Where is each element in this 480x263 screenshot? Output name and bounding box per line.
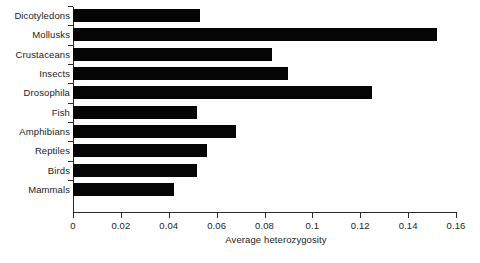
y-tick: [68, 6, 73, 7]
bar-rect: [73, 86, 372, 99]
bar-rect: [73, 67, 288, 80]
bar-crustaceans: [73, 48, 272, 61]
bar-amphibians: [73, 125, 236, 138]
category-label-mollusks: Mollusks: [0, 29, 70, 40]
bar-fish: [73, 106, 197, 119]
y-tick: [68, 161, 73, 162]
bar-rect: [73, 144, 207, 157]
category-label-insects: Insects: [0, 68, 70, 79]
category-label-dicotyledons: Dicotyledons: [0, 10, 70, 21]
bar-rect: [73, 48, 272, 61]
category-label-drosophila: Drosophila: [0, 87, 70, 98]
category-label-birds: Birds: [0, 165, 70, 176]
x-axis-title-text: Average heterozygosity: [225, 234, 326, 246]
bar-reptiles: [73, 144, 207, 157]
bar-rect: [73, 125, 236, 138]
y-tick: [68, 180, 73, 181]
bar-mollusks: [73, 28, 437, 41]
category-label-crustaceans: Crustaceans: [0, 49, 70, 60]
bar-drosophila: [73, 86, 372, 99]
category-label-reptiles: Reptiles: [0, 145, 70, 156]
x-tick: [360, 213, 361, 218]
x-tick: [73, 213, 74, 218]
bar-rect: [73, 183, 174, 196]
bar-chart: DicotyledonsMollusksCrustaceansInsectsDr…: [0, 0, 480, 263]
bar-insects: [73, 67, 288, 80]
y-tick: [68, 64, 73, 65]
bar-dicotyledons: [73, 9, 200, 22]
bar-rect: [73, 9, 200, 22]
x-tick: [169, 213, 170, 218]
y-tick: [68, 122, 73, 123]
x-tick: [408, 213, 409, 218]
x-tick: [265, 213, 266, 218]
y-tick: [68, 103, 73, 104]
category-label-amphibians: Amphibians: [0, 126, 70, 137]
x-tick: [456, 213, 457, 218]
x-tick: [217, 213, 218, 218]
bar-birds: [73, 164, 197, 177]
x-tick-label-0.16: 0.16: [426, 220, 480, 232]
category-label-fish: Fish: [0, 107, 70, 118]
y-tick: [68, 83, 73, 84]
x-tick: [312, 213, 313, 218]
y-tick: [68, 141, 73, 142]
x-axis-title: Average heterozygosity: [0, 234, 480, 246]
bar-rect: [73, 106, 197, 119]
y-tick: [68, 25, 73, 26]
y-tick: [68, 45, 73, 46]
category-label-mammals: Mammals: [0, 184, 70, 195]
bar-mammals: [73, 183, 174, 196]
bar-rect: [73, 28, 437, 41]
bar-rect: [73, 164, 197, 177]
x-tick: [121, 213, 122, 218]
